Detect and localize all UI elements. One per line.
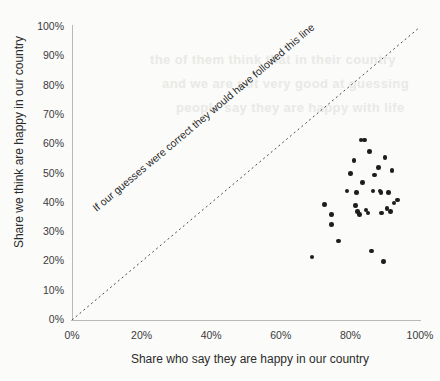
y-tick-label: 100% bbox=[20, 20, 64, 32]
x-tick-label: 40% bbox=[189, 329, 233, 341]
data-point bbox=[362, 138, 367, 143]
data-point bbox=[353, 203, 358, 208]
data-point bbox=[348, 171, 353, 176]
data-point bbox=[336, 239, 341, 244]
y-tick-label: 80% bbox=[20, 79, 64, 91]
data-point bbox=[352, 158, 357, 163]
x-axis-title: Share who say they are happy in our coun… bbox=[60, 352, 440, 366]
scatter-chart: the of them think that in their country … bbox=[0, 0, 440, 381]
x-tick-label: 20% bbox=[120, 329, 164, 341]
x-axis-line bbox=[71, 320, 421, 321]
data-point bbox=[357, 212, 362, 217]
identity-reference-line bbox=[72, 27, 420, 320]
x-tick-label: 60% bbox=[259, 329, 303, 341]
data-point bbox=[388, 209, 393, 214]
y-tick-label: 70% bbox=[20, 108, 64, 120]
y-tick-label: 60% bbox=[20, 137, 64, 149]
y-tick-label: 40% bbox=[20, 196, 64, 208]
data-point bbox=[381, 259, 386, 264]
plot-area: If our guesses were correct they would h… bbox=[72, 27, 420, 320]
data-point bbox=[354, 190, 359, 195]
y-tick-label: 0% bbox=[20, 313, 64, 325]
data-point bbox=[379, 190, 384, 195]
data-point bbox=[395, 198, 400, 203]
y-tick-label: 50% bbox=[20, 167, 64, 179]
y-tick-label: 10% bbox=[20, 284, 64, 296]
y-tick-label: 30% bbox=[20, 225, 64, 237]
data-point bbox=[322, 202, 327, 207]
data-point bbox=[376, 165, 381, 170]
data-point bbox=[329, 222, 334, 227]
data-point bbox=[329, 212, 334, 217]
data-point bbox=[369, 249, 374, 254]
x-tick-label: 80% bbox=[328, 329, 372, 341]
data-point bbox=[386, 190, 391, 195]
y-tick-label: 90% bbox=[20, 49, 64, 61]
x-tick-label: 100% bbox=[398, 329, 440, 341]
data-point bbox=[367, 149, 372, 154]
y-tick-label: 20% bbox=[20, 254, 64, 266]
x-tick-label: 0% bbox=[50, 329, 94, 341]
data-point bbox=[360, 180, 365, 185]
